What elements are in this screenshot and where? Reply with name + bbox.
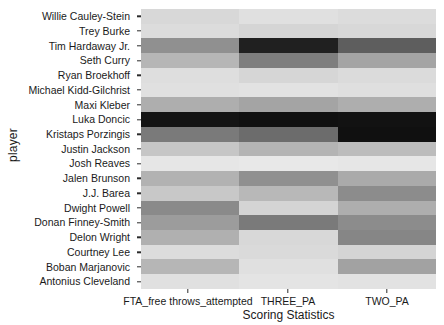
heatmap-cell[interactable] xyxy=(141,245,239,260)
heatmap-cell[interactable] xyxy=(338,215,436,230)
y-axis-tick-label: Maxi Kleber xyxy=(24,97,132,112)
x-axis-title-text: Scoring Statistics xyxy=(242,308,334,322)
heatmap-cell[interactable] xyxy=(141,68,239,83)
heatmap-row xyxy=(141,24,436,39)
y-axis-tick-mark xyxy=(134,97,141,112)
heatmap-cell[interactable] xyxy=(338,259,436,274)
heatmap-cell[interactable] xyxy=(141,171,239,186)
heatmap-row xyxy=(141,142,436,157)
y-axis-tick-mark xyxy=(134,171,141,186)
heatmap-cell[interactable] xyxy=(338,53,436,68)
heatmap-plot-area xyxy=(141,9,436,289)
y-axis-tick-mark xyxy=(134,274,141,289)
heatmap-cell[interactable] xyxy=(338,83,436,98)
heatmap-row xyxy=(141,215,436,230)
heatmap-cell[interactable] xyxy=(338,186,436,201)
x-axis-tick-mark xyxy=(287,289,288,293)
heatmap-cell[interactable] xyxy=(141,230,239,245)
y-axis-tick-label: Ryan Broekhoff xyxy=(24,68,132,83)
heatmap-cell[interactable] xyxy=(141,127,239,142)
y-axis-tick-mark xyxy=(134,83,141,98)
y-axis-tick-mark xyxy=(134,215,141,230)
y-axis-tick-labels: Willie Cauley-SteinTrey BurkeTim Hardawa… xyxy=(24,9,132,289)
y-axis-tick-label: Trey Burke xyxy=(24,24,132,39)
heatmap-cell[interactable] xyxy=(239,112,337,127)
heatmap-cell[interactable] xyxy=(141,24,239,39)
heatmap-cell[interactable] xyxy=(239,83,337,98)
heatmap-row xyxy=(141,127,436,142)
heatmap-cell[interactable] xyxy=(338,245,436,260)
heatmap-cell[interactable] xyxy=(338,201,436,216)
heatmap-cell[interactable] xyxy=(338,9,436,24)
heatmap-cell[interactable] xyxy=(239,97,337,112)
heatmap-cell[interactable] xyxy=(141,38,239,53)
heatmap-row xyxy=(141,9,436,24)
x-axis-tick-labels: FTA_free throws_attemptedTHREE_PATWO_PA xyxy=(0,295,444,309)
heatmap-cell[interactable] xyxy=(239,171,337,186)
y-axis-tick-mark xyxy=(134,230,141,245)
heatmap-cell[interactable] xyxy=(338,97,436,112)
heatmap-row xyxy=(141,186,436,201)
heatmap-figure: player Willie Cauley-SteinTrey BurkeTim … xyxy=(0,0,444,325)
y-axis-tick-label: Dwight Powell xyxy=(24,201,132,216)
heatmap-cell[interactable] xyxy=(239,230,337,245)
heatmap-cell[interactable] xyxy=(239,245,337,260)
y-axis-tick-mark xyxy=(134,259,141,274)
heatmap-row xyxy=(141,53,436,68)
heatmap-cell[interactable] xyxy=(239,186,337,201)
y-axis-tick-label: Justin Jackson xyxy=(24,142,132,157)
y-axis-tick-label: Willie Cauley-Stein xyxy=(24,9,132,24)
y-axis-tick-mark xyxy=(134,68,141,83)
heatmap-cell[interactable] xyxy=(141,201,239,216)
heatmap-cell[interactable] xyxy=(239,215,337,230)
y-axis-tick-label: Michael Kidd-Gilchrist xyxy=(24,83,132,98)
heatmap-cell[interactable] xyxy=(239,68,337,83)
y-axis-tick-mark xyxy=(134,186,141,201)
y-axis-tick-mark xyxy=(134,245,141,260)
heatmap-cell[interactable] xyxy=(338,68,436,83)
heatmap-cell[interactable] xyxy=(141,83,239,98)
heatmap-cell[interactable] xyxy=(239,53,337,68)
heatmap-cell[interactable] xyxy=(338,230,436,245)
y-axis-tick-label: Boban Marjanovic xyxy=(24,259,132,274)
heatmap-cell[interactable] xyxy=(338,127,436,142)
heatmap-cell[interactable] xyxy=(338,171,436,186)
heatmap-cell[interactable] xyxy=(141,274,239,289)
heatmap-cell[interactable] xyxy=(141,259,239,274)
heatmap-row xyxy=(141,68,436,83)
heatmap-cell[interactable] xyxy=(239,201,337,216)
y-axis-tick-mark xyxy=(134,112,141,127)
heatmap-cell[interactable] xyxy=(141,9,239,24)
y-axis-tick-label: Jalen Brunson xyxy=(24,171,132,186)
heatmap-row xyxy=(141,274,436,289)
heatmap-cell[interactable] xyxy=(141,186,239,201)
y-axis-title: player xyxy=(2,0,24,290)
heatmap-cell[interactable] xyxy=(141,215,239,230)
heatmap-cell[interactable] xyxy=(239,127,337,142)
x-axis-tick-label: FTA_free throws_attempted xyxy=(123,295,252,308)
heatmap-cell[interactable] xyxy=(338,24,436,39)
heatmap-cell[interactable] xyxy=(338,142,436,157)
x-axis-title: Scoring Statistics xyxy=(141,308,436,322)
heatmap-cell[interactable] xyxy=(239,259,337,274)
heatmap-cell[interactable] xyxy=(239,24,337,39)
x-axis-tick-mark xyxy=(187,289,188,293)
heatmap-cell[interactable] xyxy=(141,97,239,112)
heatmap-cell[interactable] xyxy=(338,38,436,53)
heatmap-cell[interactable] xyxy=(239,142,337,157)
y-axis-tick-label: Courtney Lee xyxy=(24,245,132,260)
heatmap-cell[interactable] xyxy=(141,112,239,127)
heatmap-cell[interactable] xyxy=(141,53,239,68)
heatmap-cell[interactable] xyxy=(338,156,436,171)
heatmap-cell[interactable] xyxy=(239,9,337,24)
y-axis-tick-mark xyxy=(134,201,141,216)
heatmap-cell[interactable] xyxy=(141,156,239,171)
heatmap-cell[interactable] xyxy=(338,112,436,127)
heatmap-cell[interactable] xyxy=(239,274,337,289)
heatmap-cell[interactable] xyxy=(141,142,239,157)
heatmap-cell[interactable] xyxy=(239,156,337,171)
y-axis-tick-marks xyxy=(134,9,141,289)
x-axis-tick-label: TWO_PA xyxy=(365,295,409,308)
heatmap-cell[interactable] xyxy=(239,38,337,53)
heatmap-cell[interactable] xyxy=(338,274,436,289)
